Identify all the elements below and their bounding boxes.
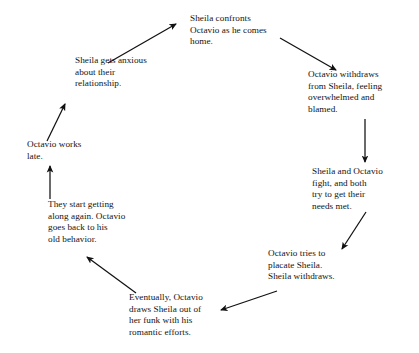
node-sheila-gets-anxious: Sheila gets anxious about their relation… xyxy=(75,55,175,90)
node-they-start-getting-along: They start getting along again. Octavio … xyxy=(48,199,158,245)
node-eventually-octavio-draws-sheila-out: Eventually, Octavio draws Sheila out of … xyxy=(129,292,235,338)
node-octavio-placates: Octavio tries to placate Sheila. Sheila … xyxy=(268,248,376,283)
node-octavio-works-late: Octavio works late. xyxy=(27,139,107,162)
arrow-works-late-to-anxious xyxy=(47,104,65,141)
diagram-canvas: Sheila confronts Octavio as he comes hom… xyxy=(0,0,419,353)
arrow-fight-to-placate xyxy=(342,212,366,249)
node-octavio-withdraws: Octavio withdraws from Sheila, feeling o… xyxy=(308,69,414,115)
node-sheila-confronts: Sheila confronts Octavio as he comes hom… xyxy=(190,13,298,48)
arrow-eventually-to-along xyxy=(87,257,136,293)
node-sheila-and-octavio-fight: Sheila and Octavio fight, and both try t… xyxy=(312,166,412,212)
